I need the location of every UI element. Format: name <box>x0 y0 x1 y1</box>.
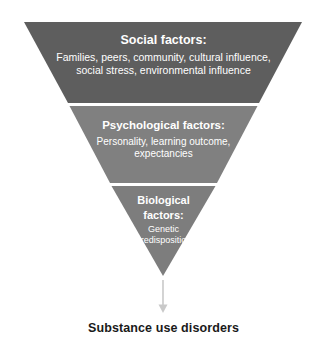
down-arrow-icon <box>148 279 178 315</box>
band-shape-social <box>24 22 302 103</box>
down-arrow-svg <box>148 279 178 315</box>
band-shape-biological <box>112 186 216 276</box>
band-shape-psychological <box>70 106 258 183</box>
diagram-canvas: Social factors: Families, peers, communi… <box>0 0 327 348</box>
arrow-head <box>159 305 168 314</box>
outcome-label: Substance use disorders <box>0 321 327 335</box>
